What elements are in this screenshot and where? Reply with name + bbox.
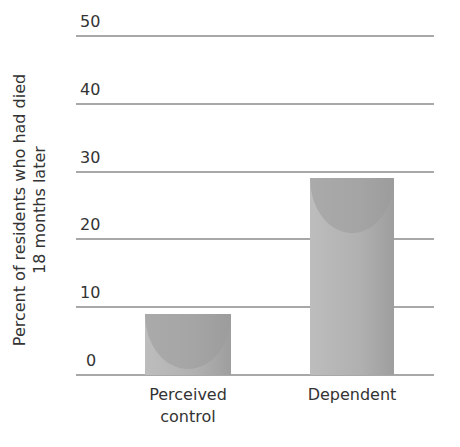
x-category-label: Perceivedcontrol (128, 384, 248, 428)
gridline (76, 35, 434, 37)
x-category-label: Dependent (292, 384, 412, 406)
y-tick-label: 10 (80, 283, 100, 302)
y-tick-label: 20 (80, 215, 100, 234)
bar-chart: Percent of residents who had died18 mont… (0, 0, 460, 447)
gridline (76, 171, 434, 173)
y-tick-label: 0 (86, 351, 96, 370)
bar (310, 178, 394, 375)
gridline (76, 103, 434, 105)
y-tick-label: 30 (80, 148, 100, 167)
y-tick-label: 50 (80, 12, 100, 31)
bar (145, 314, 231, 375)
y-axis-label: Percent of residents who had died18 mont… (10, 40, 50, 380)
y-tick-label: 40 (80, 80, 100, 99)
